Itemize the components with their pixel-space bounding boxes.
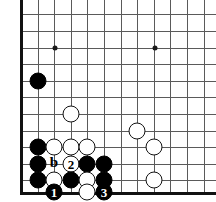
black-stone-cut-left [79, 156, 96, 173]
black-stone-left-wall-bottom [30, 172, 47, 189]
white-stone-first-line [79, 184, 96, 201]
black-stone-cut-right [96, 156, 113, 173]
white-stone-right-upper [129, 123, 146, 140]
grid-line-vertical-11 [204, 0, 205, 192]
white-stone-move-2: 2 [63, 156, 80, 173]
white-stone-right-middle [146, 139, 163, 156]
grid-line-vertical-8 [154, 0, 155, 192]
star-point-upper-right [153, 46, 158, 51]
black-stone-move-1: 1 [46, 184, 63, 201]
move-number-2: 2 [68, 158, 75, 171]
white-stone-right-lower [146, 172, 163, 189]
board-edge-left [20, 0, 23, 195]
black-stone-left-wall-middle [30, 156, 47, 173]
move-number-1: 1 [51, 186, 58, 199]
black-stone-left-wall-top [30, 139, 47, 156]
grid-line-vertical-10 [187, 0, 188, 192]
go-board-diagram: ba213 [0, 0, 216, 202]
move-number-3: 3 [101, 186, 108, 199]
star-point-upper-left [53, 46, 58, 51]
black-stone-second-line [63, 172, 80, 189]
white-stone-row-a [46, 139, 63, 156]
grid-line-vertical-7 [137, 0, 138, 192]
grid-line-vertical-6 [121, 0, 122, 192]
black-stone-move-3: 3 [96, 184, 113, 201]
point-label-b: b [50, 155, 58, 170]
white-stone-row-c [79, 139, 96, 156]
go-board-surface: ba213 [0, 0, 216, 202]
white-stone-row-b [63, 139, 80, 156]
white-stone-center [63, 106, 80, 123]
grid-line-vertical-9 [170, 0, 171, 192]
black-stone-corner-approach [30, 73, 47, 90]
